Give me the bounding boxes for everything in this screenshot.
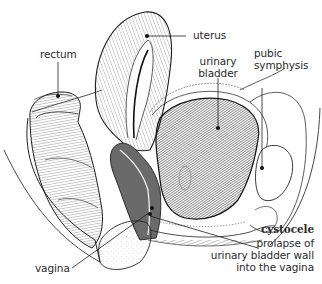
dot-vagina <box>150 206 154 210</box>
rectum-shape <box>30 92 103 248</box>
dot-rectum <box>56 94 60 98</box>
label-pubic-symphysis: pubic symphysis <box>254 47 308 71</box>
label-cystocele-title: cystocele <box>261 223 314 235</box>
label-cystocele-desc-line1: prolapse of <box>211 237 314 249</box>
label-uterus: uterus <box>193 29 226 41</box>
label-cystocele-desc-line2: urinary bladder wall <box>211 249 314 261</box>
label-urinary-bladder: urinary bladder <box>195 55 241 79</box>
urinary-bladder-shape <box>150 83 268 219</box>
label-pubic-symphysis-line2: symphysis <box>254 59 308 71</box>
perineal-body <box>99 221 151 270</box>
dot-uterus <box>145 34 149 38</box>
label-urinary-bladder-line1: urinary <box>195 55 241 67</box>
dot-cystocele <box>148 212 152 216</box>
label-cystocele-desc-line3: into the vagina <box>211 261 314 273</box>
label-cystocele-description: prolapse of urinary bladder wall into th… <box>211 237 314 273</box>
label-urinary-bladder-line2: bladder <box>195 67 241 79</box>
label-rectum: rectum <box>40 48 77 60</box>
dot-urinary-bladder <box>216 126 220 130</box>
dot-pubic-symphysis <box>260 166 264 170</box>
label-vagina: vagina <box>35 262 70 274</box>
label-pubic-symphysis-line1: pubic <box>254 47 308 59</box>
